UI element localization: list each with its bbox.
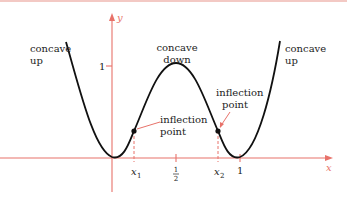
x-axis-arrow-icon xyxy=(325,155,333,161)
concave-up-right-label: concave up xyxy=(285,43,326,66)
inflection-point-1 xyxy=(131,128,136,133)
svg-text:concave: concave xyxy=(30,43,71,54)
svg-text:2: 2 xyxy=(220,172,224,180)
concave-up-left-label: concave up xyxy=(30,43,71,66)
svg-text:point: point xyxy=(160,126,186,137)
svg-text:1: 1 xyxy=(137,172,141,180)
inflection-pointer-left xyxy=(137,122,160,129)
x2-tick-label: x 2 xyxy=(214,166,224,180)
svg-text:up: up xyxy=(285,55,298,66)
svg-text:up: up xyxy=(30,55,43,66)
x-axis-label: x xyxy=(326,162,332,173)
svg-text:inflection: inflection xyxy=(160,114,208,125)
inflection-point-right-label: inflection point xyxy=(216,87,264,110)
svg-text:point: point xyxy=(222,99,248,110)
x1-tick-label: x 1 xyxy=(131,166,141,180)
inflection-point-2 xyxy=(215,128,220,133)
concave-down-label: concave down xyxy=(156,42,197,65)
svg-text:2: 2 xyxy=(174,175,178,183)
svg-text:concave: concave xyxy=(285,43,326,54)
one-tick-label: 1 xyxy=(237,165,243,176)
inflection-point-left-label: inflection point xyxy=(160,114,208,137)
y-tick-label: 1 xyxy=(99,61,105,72)
half-tick-label: 1 2 xyxy=(173,166,179,183)
y-axis-label: y xyxy=(116,12,123,23)
svg-text:1: 1 xyxy=(174,166,178,174)
svg-text:concave: concave xyxy=(156,42,197,53)
concavity-diagram: x y 1 x 1 1 2 x 2 1 concave up concave d… xyxy=(0,0,347,197)
y-axis-arrow-icon xyxy=(109,13,115,21)
svg-text:inflection: inflection xyxy=(216,87,264,98)
pointer-arrow-icon xyxy=(220,122,224,128)
svg-text:down: down xyxy=(163,54,191,65)
